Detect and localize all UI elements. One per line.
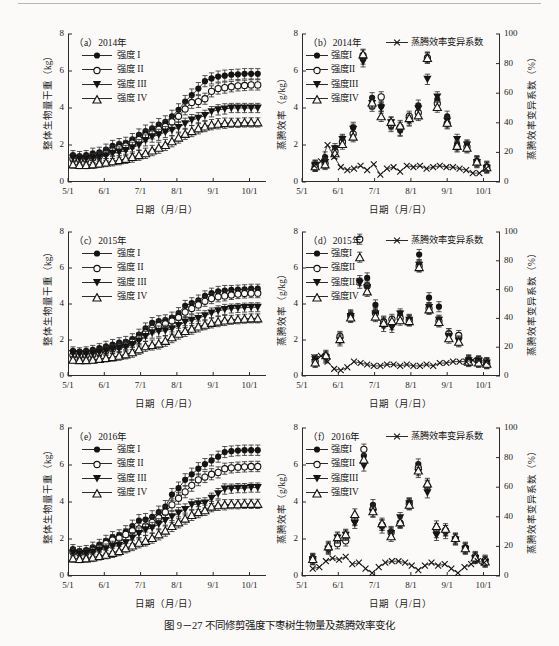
legend-label: 强度II (331, 459, 355, 468)
x-tick-label: 6/1 (327, 580, 349, 590)
y2-tick-label: 100 (504, 422, 518, 432)
legend-label-cv: 蒸腾效率变异系数 (411, 432, 483, 441)
x-axis-label: 日期（月/日） (369, 596, 432, 610)
legend-item-cv: 蒸腾效率变异系数 (386, 429, 483, 444)
legend-item: 强度II (306, 457, 359, 472)
filled-circle-icon (306, 444, 328, 454)
legend-label: 强度I (331, 445, 352, 454)
legend-item: 强度IV (306, 486, 359, 501)
y-axis-label: 蒸腾效率（g/kg） (274, 467, 288, 544)
panel-tag-f: （f）2016年 (308, 429, 360, 443)
legend-item: 强度I (306, 442, 359, 457)
legend-item: 强度III (306, 471, 359, 486)
y-tick-label: 8 (286, 422, 298, 432)
y2-tick-label: 20 (504, 540, 513, 550)
y2-axis-label: 蒸腾效率变异系数（%） (524, 446, 538, 554)
y2-tick-label: 0 (504, 570, 509, 580)
x-tick-label: 7/1 (364, 580, 386, 590)
legend-f: 强度I强度II强度III强度IV (306, 442, 359, 500)
x-tick-label: 5/1 (291, 580, 313, 590)
y-tick-label: 0 (286, 570, 298, 580)
legend-cv-f: 蒸腾效率变异系数 (386, 429, 483, 444)
filled-triangle-down-icon (306, 473, 328, 483)
legend-label: 强度III (331, 474, 358, 483)
y2-tick-label: 80 (504, 452, 513, 462)
series-cv (310, 554, 487, 576)
x-tick-label: 9/1 (436, 580, 458, 590)
y2-tick-label: 60 (504, 481, 513, 491)
legend-label: 强度IV (331, 488, 359, 497)
plot-graphics-f (0, 0, 559, 646)
y2-tick-label: 40 (504, 511, 513, 521)
x-tick-label: 8/1 (400, 580, 422, 590)
open-circle-icon (306, 459, 328, 469)
x-tick-label: 10/1 (473, 580, 495, 590)
figure-caption: 图 9－27 不同修剪强度下枣树生物量及蒸腾效率变化 (0, 617, 559, 632)
figure-page: 024685/16/17/18/19/110/1（a）2014年强度 I强度 I… (0, 0, 559, 646)
open-triangle-up-icon (306, 488, 328, 498)
x-cross-icon (386, 431, 408, 441)
